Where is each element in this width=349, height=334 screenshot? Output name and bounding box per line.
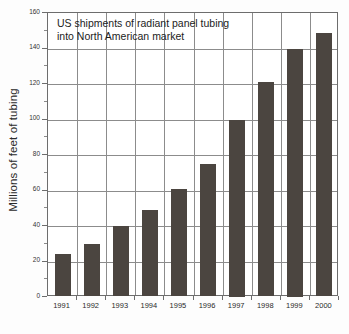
x-tick-mark — [222, 296, 223, 300]
y-tick-label: 40 — [18, 222, 40, 229]
gridline-vertical — [223, 13, 224, 295]
x-tick-mark — [309, 296, 310, 300]
y-tick-label: 60 — [18, 186, 40, 193]
y-tick-label: 100 — [18, 115, 40, 122]
gridline-vertical — [194, 13, 195, 295]
x-tick-mark — [76, 296, 77, 300]
gridline-vertical — [106, 13, 107, 295]
bar-1993 — [113, 226, 129, 296]
x-tick-mark — [193, 296, 194, 300]
x-tick-mark — [251, 296, 252, 300]
plot-area — [47, 12, 338, 296]
gridline-vertical — [281, 13, 282, 295]
x-tick-mark — [280, 296, 281, 300]
bar-chart-figure: Millions of feet of tubing 0204060801001… — [0, 0, 349, 334]
gridline-vertical — [252, 13, 253, 295]
y-tick-mark — [42, 296, 47, 297]
gridline-vertical — [135, 13, 136, 295]
y-tick-label: 80 — [18, 151, 40, 158]
bar-1996 — [200, 164, 216, 296]
gridline-vertical — [164, 13, 165, 295]
x-tick-mark — [134, 296, 135, 300]
y-tick-label: 120 — [18, 80, 40, 87]
chart-title: US shipments of radiant panel tubing int… — [57, 17, 272, 43]
y-tick-label: 160 — [18, 9, 40, 16]
x-tick-mark — [105, 296, 106, 300]
chart-title-line-2: into North American market — [57, 30, 272, 43]
x-tick-mark — [338, 296, 339, 300]
y-tick-label: 20 — [18, 257, 40, 264]
bar-1994 — [142, 210, 158, 296]
bar-1998 — [258, 82, 274, 296]
bar-1999 — [287, 49, 303, 297]
chart-title-line-1: US shipments of radiant panel tubing — [57, 17, 229, 29]
gridline-vertical — [77, 13, 78, 295]
gridline-vertical — [310, 13, 311, 295]
bar-1992 — [84, 244, 100, 296]
bar-1991 — [55, 254, 71, 296]
y-tick-label: 140 — [18, 44, 40, 51]
bar-1997 — [229, 120, 245, 297]
bar-1995 — [171, 189, 187, 296]
x-tick-mark — [163, 296, 164, 300]
bar-2000 — [316, 33, 332, 296]
x-tick-label-2000: 2000 — [303, 302, 343, 310]
y-tick-label: 0 — [18, 293, 40, 300]
